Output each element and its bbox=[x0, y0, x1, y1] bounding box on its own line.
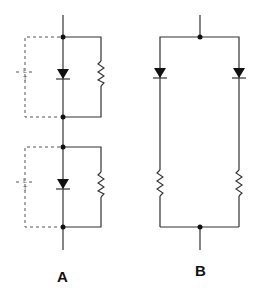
junction-dot bbox=[61, 145, 66, 150]
marker-bottom: T bbox=[23, 75, 28, 82]
marker-top: L bbox=[23, 67, 27, 74]
shunt-wire-bottom bbox=[63, 86, 101, 117]
shunt-wire-top bbox=[63, 37, 101, 61]
resistor-icon bbox=[98, 172, 104, 197]
diode-icon bbox=[154, 68, 166, 78]
dashed-enclosure bbox=[25, 147, 60, 227]
junction-dot bbox=[198, 225, 203, 230]
marker-top: L bbox=[23, 177, 27, 184]
shunt-wire-top bbox=[63, 147, 101, 172]
branch-frame-top bbox=[160, 37, 239, 227]
diode-icon bbox=[57, 179, 69, 189]
junction-dot bbox=[61, 35, 66, 40]
junction-dot bbox=[198, 35, 203, 40]
diode-icon bbox=[233, 68, 245, 78]
stage-1: L T bbox=[16, 35, 104, 120]
junction-dot bbox=[61, 225, 66, 230]
panel-b-label: B bbox=[195, 262, 206, 279]
resistor-icon bbox=[98, 61, 104, 86]
junction-dot bbox=[61, 115, 66, 120]
dashed-enclosure bbox=[25, 37, 60, 117]
diode-icon bbox=[57, 69, 69, 79]
panel-a-label: A bbox=[57, 268, 68, 285]
marker-bottom: T bbox=[23, 185, 28, 192]
stage-2: L T bbox=[16, 145, 104, 230]
circuit-diagram: L T L T A bbox=[0, 0, 256, 293]
panel-b: B bbox=[153, 15, 246, 279]
shunt-wire-bottom bbox=[63, 197, 101, 227]
panel-a: L T L T A bbox=[16, 15, 104, 285]
